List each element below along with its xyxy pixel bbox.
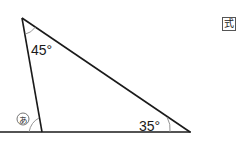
exterior-angle-arc bbox=[29, 118, 39, 132]
triangle-diagram: 45° 35° あ bbox=[0, 0, 246, 143]
angle-45-label: 45° bbox=[31, 42, 52, 58]
hypotenuse bbox=[22, 18, 190, 132]
angle-35-label: 35° bbox=[139, 118, 160, 134]
right-angle-arc bbox=[167, 117, 170, 132]
unknown-angle-label: あ bbox=[19, 115, 28, 125]
top-angle-arc bbox=[26, 27, 36, 34]
